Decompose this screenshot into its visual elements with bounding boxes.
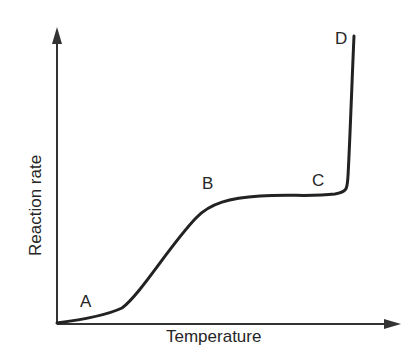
point-label-b: B bbox=[202, 174, 213, 194]
point-label-d: D bbox=[335, 29, 347, 49]
x-axis-arrowhead-icon bbox=[384, 319, 401, 329]
point-label-c: C bbox=[312, 171, 324, 191]
point-label-a: A bbox=[80, 292, 91, 312]
y-axis-label: Reaction rate bbox=[26, 156, 50, 256]
y-axis-arrowhead-icon bbox=[52, 27, 62, 44]
x-axis-label: Temperature bbox=[166, 327, 261, 347]
